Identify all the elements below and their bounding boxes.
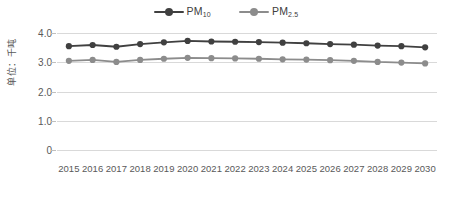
- data-point[interactable]: [208, 55, 214, 61]
- data-point[interactable]: [375, 59, 381, 65]
- data-point[interactable]: [90, 42, 96, 48]
- data-point[interactable]: [375, 42, 381, 48]
- data-point[interactable]: [398, 43, 404, 49]
- data-point[interactable]: [113, 44, 119, 50]
- data-point[interactable]: [398, 59, 404, 65]
- data-point[interactable]: [256, 39, 262, 45]
- data-point[interactable]: [422, 44, 428, 50]
- data-point[interactable]: [280, 40, 286, 46]
- data-point[interactable]: [113, 59, 119, 65]
- data-point[interactable]: [137, 41, 143, 47]
- data-point[interactable]: [327, 41, 333, 47]
- data-point[interactable]: [90, 57, 96, 63]
- y-axis-tick: [51, 62, 56, 63]
- data-point[interactable]: [185, 38, 191, 44]
- data-point[interactable]: [351, 42, 357, 48]
- data-point[interactable]: [161, 56, 167, 62]
- data-point[interactable]: [66, 43, 72, 49]
- y-axis-tick: [51, 150, 56, 151]
- y-axis-tick: [51, 33, 56, 34]
- data-point[interactable]: [208, 38, 214, 44]
- data-point[interactable]: [327, 57, 333, 63]
- line-chart: PM10 PM2.5 单位：千吨 4.03.02.01.00 201520162…: [0, 0, 452, 197]
- data-point[interactable]: [280, 56, 286, 62]
- data-point[interactable]: [232, 55, 238, 61]
- data-point[interactable]: [422, 60, 428, 66]
- series-line-pm10: [69, 41, 425, 47]
- y-axis-tick: [51, 121, 56, 122]
- series-line-pm2-5: [69, 58, 425, 64]
- data-point[interactable]: [185, 55, 191, 61]
- data-point[interactable]: [232, 39, 238, 45]
- data-point[interactable]: [161, 39, 167, 45]
- x-axis-tick-label: 2030: [410, 163, 440, 174]
- data-point[interactable]: [137, 57, 143, 63]
- data-point[interactable]: [66, 58, 72, 64]
- data-point[interactable]: [303, 57, 309, 63]
- data-point[interactable]: [303, 40, 309, 46]
- x-axis-labels: 2015201620172018201920202021202220232024…: [57, 163, 437, 177]
- y-axis-tick: [51, 92, 56, 93]
- data-point[interactable]: [256, 56, 262, 62]
- data-point[interactable]: [351, 58, 357, 64]
